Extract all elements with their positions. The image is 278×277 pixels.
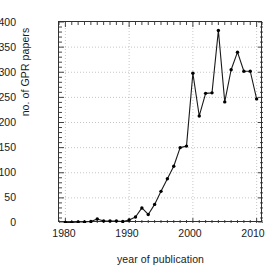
x-tick-label-2010: 2010 (232, 228, 274, 239)
x-tick-label-1990: 1990 (106, 228, 148, 239)
y-tick-label-200: 200 (0, 117, 16, 128)
y-tick-label-250: 250 (0, 92, 16, 103)
plot-svg (59, 22, 263, 223)
y-tick-label-0: 0 (0, 217, 16, 228)
gpr-papers-line-chart: no. of GPR papers 400 350 300 250 200 15… (0, 0, 278, 277)
x-tick-label-2000: 2000 (169, 228, 211, 239)
data-point-markers (64, 29, 259, 223)
data-series-line (65, 31, 256, 223)
plot-area (58, 21, 262, 222)
y-tick-label-150: 150 (0, 142, 16, 153)
x-tick-label-1980: 1980 (43, 228, 85, 239)
y-tick-label-50: 50 (0, 192, 16, 203)
x-axis-title: year of publication (58, 253, 263, 265)
y-tick-label-400: 400 (0, 17, 16, 28)
y-tick-label-300: 300 (0, 67, 16, 78)
y-axis-title: no. of GPR papers (19, 2, 31, 142)
y-tick-label-100: 100 (0, 167, 16, 178)
y-tick-label-350: 350 (0, 42, 16, 53)
